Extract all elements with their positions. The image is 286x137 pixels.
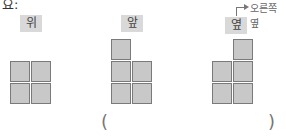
- square: [132, 61, 152, 82]
- answer-close-paren: ): [268, 111, 275, 132]
- square: [111, 61, 131, 82]
- square: [31, 83, 51, 104]
- front-view-label: 앞: [121, 15, 143, 32]
- square: [10, 61, 30, 82]
- answer-blank[interactable]: [110, 112, 265, 132]
- square: [233, 83, 253, 104]
- square: [31, 61, 51, 82]
- top-view-label: 위: [20, 15, 42, 32]
- answer-open-paren: (: [101, 111, 108, 132]
- arrow-head-icon: [244, 4, 249, 10]
- square: [132, 83, 152, 104]
- square: [111, 83, 131, 104]
- square: [233, 61, 253, 82]
- square: [212, 83, 232, 104]
- callout-right-side: 오른쪽 옆: [250, 0, 286, 30]
- side-view-label: 옆: [225, 17, 247, 34]
- question-text-fragment: 요:: [2, 0, 18, 13]
- square: [212, 61, 232, 82]
- square: [111, 39, 131, 60]
- square: [233, 39, 253, 60]
- square: [10, 83, 30, 104]
